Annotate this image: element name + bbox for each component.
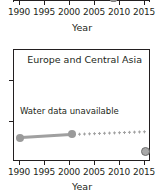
upper-xtick-1990	[19, 1, 20, 5]
upper-xtick-1995	[44, 1, 45, 5]
upper-xtick-2005	[94, 1, 95, 5]
series-marker-2015-estimate	[141, 147, 150, 156]
lower-panel-xaxis-title: Year	[0, 181, 164, 192]
upper-panel-frame-left	[13, 0, 14, 2]
upper-xticklabel-2000: 2000	[58, 6, 80, 18]
xtick-1990	[19, 161, 20, 165]
series-marker-1990	[16, 134, 24, 142]
upper-xtick-2000	[69, 1, 70, 5]
series-projected-line	[72, 130, 146, 136]
xtick-2000	[69, 161, 70, 165]
upper-xticklabel-2005: 2005	[83, 6, 105, 18]
figure-container: 1990 1995 2000 2005 2010 2015 Year Europ…	[0, 0, 164, 195]
upper-xtick-2010	[119, 1, 120, 5]
upper-xtick-2015	[144, 1, 145, 5]
xtick-2005	[94, 161, 95, 165]
series-observed-line	[20, 133, 72, 139]
xtick-2015	[144, 161, 145, 165]
upper-panel-xtick-labels: 1990 1995 2000 2005 2010 2015	[0, 6, 164, 18]
xticklabel-2010: 2010	[108, 166, 130, 178]
upper-panel-clipped-marker	[110, 0, 117, 2]
lower-panel-xtick-labels: 1990 1995 2000 2005 2010 2015	[0, 166, 164, 178]
series-marker-2002	[68, 130, 76, 138]
panel-title: Europe and Central Asia	[27, 54, 142, 65]
xticklabel-2005: 2005	[83, 166, 105, 178]
upper-panel-xaxis-title: Year	[0, 22, 164, 33]
xtick-2010	[119, 161, 120, 165]
plot-area: Europe and Central Asia Water data unava…	[13, 49, 150, 161]
upper-panel-clipped: 1990 1995 2000 2005 2010 2015 Year	[0, 0, 164, 38]
xticklabel-2015: 2015	[133, 166, 155, 178]
data-unavailable-annotation: Water data unavailable	[20, 106, 119, 116]
upper-panel-frame-right	[149, 0, 150, 2]
lower-panel: Europe and Central Asia Water data unava…	[0, 49, 164, 195]
xticklabel-1995: 1995	[33, 166, 55, 178]
upper-xticklabel-1995: 1995	[33, 6, 55, 18]
xticklabel-1990: 1990	[8, 166, 30, 178]
upper-xticklabel-2010: 2010	[108, 6, 130, 18]
upper-xticklabel-1990: 1990	[8, 6, 30, 18]
xticklabel-2000: 2000	[58, 166, 80, 178]
xtick-1995	[44, 161, 45, 165]
upper-xticklabel-2015: 2015	[133, 6, 155, 18]
upper-panel-axis-line	[13, 0, 150, 1]
